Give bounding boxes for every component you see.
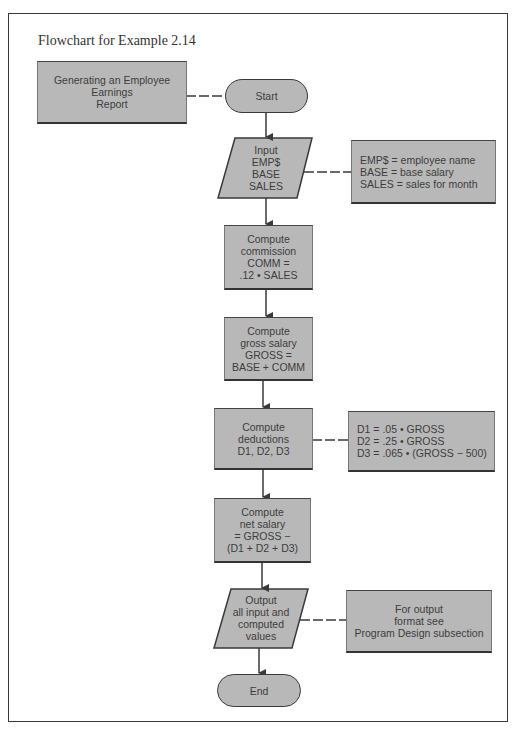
end-terminal: End <box>217 674 301 707</box>
title-box: Generating an Employee Earnings Report <box>37 61 187 124</box>
compute-net-box: Compute net salary = GROSS − (D1 + D2 + … <box>214 498 311 563</box>
compute-deductions-box: Compute deductions D1, D2, D3 <box>214 408 313 470</box>
deductions-formula-note: D1 = .05 • GROSS D2 = .25 • GROSS D3 = .… <box>348 411 495 472</box>
input-label: Input EMP$ BASE SALES <box>232 144 300 192</box>
compute-commission-box: Compute commission COMM = .12 • SALES <box>224 225 313 290</box>
input-variables-note: EMP$ = employee name BASE = base salary … <box>351 140 496 204</box>
compute-gross-box: Compute gross salary GROSS = BASE + COMM <box>224 317 313 381</box>
output-format-note: For output format see Program Design sub… <box>346 590 492 653</box>
output-label: Output all input and computed values <box>222 594 300 642</box>
start-terminal: Start <box>225 79 308 113</box>
